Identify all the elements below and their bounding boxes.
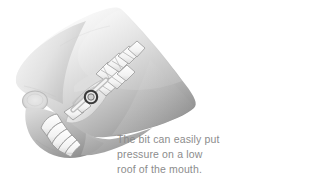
bit-ring [85,91,97,103]
caption-line-3: roof of the mouth. [117,162,229,177]
caption-line-2: pressure on a low [117,147,229,162]
caption-line-1: The bit can easily put [117,132,229,147]
caption-text: The bit can easily put pressure on a low… [117,132,229,177]
